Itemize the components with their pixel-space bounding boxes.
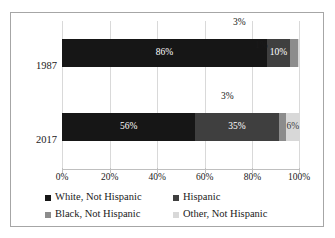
x-axis-labels: 0% 20% 40% 60% 80% 100% — [62, 173, 300, 187]
bar-2017-segment-hispanic[interactable]: 35% — [195, 113, 278, 141]
x-tick-label-20: 20% — [101, 173, 118, 183]
category-label-1987: 1987 — [15, 61, 57, 72]
bar-2017-segment-black[interactable] — [279, 113, 286, 141]
x-tick-label-40: 40% — [148, 173, 165, 183]
callout-1987-black-not-hispanic: 3% — [233, 18, 246, 28]
legend-item-black-not-hispanic[interactable]: Black, Not Hispanic — [45, 209, 173, 220]
legend-label-black-not-hispanic: Black, Not Hispanic — [55, 209, 140, 220]
bar-2017[interactable]: 56% 35% 6% — [62, 113, 300, 141]
x-tick-label-80: 80% — [244, 173, 261, 183]
legend-item-other-not-hispanic[interactable]: Other, Not Hispanic — [173, 209, 295, 220]
legend-item-hispanic[interactable]: Hispanic — [173, 192, 295, 203]
bar-1987-segment-white[interactable]: 86% — [62, 39, 267, 67]
callout-2017-black-not-hispanic: 3% — [221, 92, 234, 102]
x-tick-label-0: 0% — [56, 173, 69, 183]
category-label-2017: 2017 — [15, 135, 57, 146]
legend-item-white-not-hispanic[interactable]: White, Not Hispanic — [45, 192, 173, 203]
legend-swatch-icon-white-not-hispanic — [45, 195, 51, 201]
legend: White, Not Hispanic Hispanic Black, Not … — [45, 189, 295, 223]
chart-frame: 86% 10% 56% 35% 6% 3% 1% 3% 1987 2017 0%… — [10, 12, 324, 227]
bar-1987-segment-hispanic[interactable]: 10% — [267, 39, 291, 67]
bar-2017-segment-white[interactable]: 56% — [62, 113, 195, 141]
x-tick-label-60: 60% — [196, 173, 213, 183]
legend-label-white-not-hispanic: White, Not Hispanic — [55, 192, 142, 203]
bar-1987-segment-black[interactable] — [290, 39, 297, 67]
legend-swatch-icon-hispanic — [173, 195, 179, 201]
bar-2017-segment-other[interactable]: 6% — [286, 113, 300, 141]
x-tick-label-100: 100% — [288, 173, 310, 183]
bar-1987-segment-other[interactable] — [298, 39, 300, 67]
legend-label-other-not-hispanic: Other, Not Hispanic — [183, 209, 267, 220]
legend-swatch-icon-black-not-hispanic — [45, 212, 51, 218]
callout-1987-other-not-hispanic: 1% — [255, 41, 268, 51]
x-axis-line — [62, 169, 300, 170]
legend-swatch-icon-other-not-hispanic — [173, 212, 179, 218]
legend-label-hispanic: Hispanic — [183, 192, 220, 203]
